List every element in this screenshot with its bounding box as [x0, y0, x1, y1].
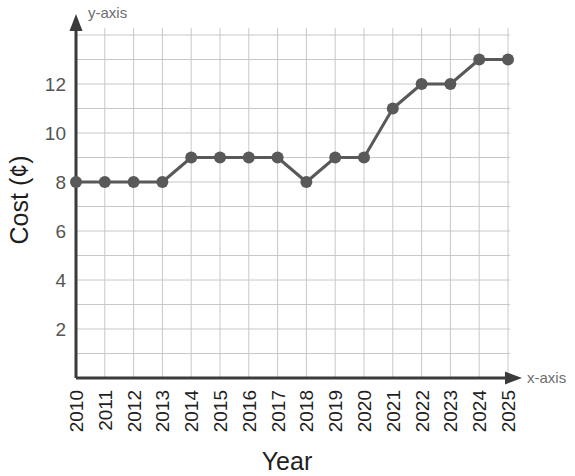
data-point-marker: [300, 176, 312, 188]
x-tick-label: 2014: [181, 390, 202, 433]
x-tick-label: 2025: [498, 390, 519, 432]
y-tick-label: 10: [45, 123, 66, 144]
data-point-marker: [444, 78, 456, 90]
data-point-marker: [128, 176, 140, 188]
data-point-marker: [272, 152, 284, 164]
x-tick-label: 2022: [412, 390, 433, 432]
x-tick-label: 2016: [239, 390, 260, 432]
data-point-marker: [70, 176, 82, 188]
data-point-marker: [329, 152, 341, 164]
data-point-marker: [156, 176, 168, 188]
chart-svg: y-axis x-axis 24681012 20102011201220132…: [0, 0, 575, 476]
data-point-marker: [387, 103, 399, 115]
y-tick-label: 4: [55, 270, 66, 291]
x-tick-label: 2021: [383, 390, 404, 432]
x-tick-label: 2011: [95, 390, 116, 431]
x-axis-name-label: x-axis: [527, 369, 566, 386]
x-tick-label: 2017: [268, 390, 289, 432]
y-tick-label: 8: [55, 172, 66, 193]
x-tick-label: 2010: [66, 390, 87, 432]
x-tick-label: 2020: [354, 390, 375, 432]
x-tick-label: 2013: [152, 390, 173, 432]
y-tick-label: 2: [55, 319, 66, 340]
data-point-marker: [473, 54, 485, 66]
x-axis-title: Year: [262, 447, 313, 475]
x-tick-label: 2015: [210, 390, 231, 432]
data-point-marker: [358, 152, 370, 164]
x-tick-label: 2012: [124, 390, 145, 432]
data-point-marker: [214, 152, 226, 164]
data-point-marker: [243, 152, 255, 164]
data-point-marker: [502, 54, 514, 66]
y-axis-name-label: y-axis: [88, 4, 127, 21]
data-point-marker: [99, 176, 111, 188]
data-point-marker: [185, 152, 197, 164]
x-tick-label: 2018: [296, 390, 317, 432]
y-tick-label: 6: [55, 221, 66, 242]
x-tick-label: 2023: [440, 390, 461, 432]
y-tick-label: 12: [45, 74, 66, 95]
y-axis-title: Cost (¢): [5, 156, 33, 245]
x-tick-label: 2024: [469, 390, 490, 433]
line-chart-figure: y-axis x-axis 24681012 20102011201220132…: [0, 0, 575, 476]
data-point-marker: [416, 78, 428, 90]
x-tick-label: 2019: [325, 390, 346, 432]
